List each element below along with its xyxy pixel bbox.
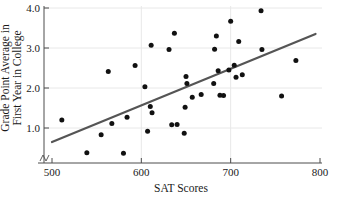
data-point (106, 69, 111, 74)
data-point (183, 105, 188, 110)
data-point (216, 68, 221, 73)
data-point (133, 63, 138, 68)
x-tick-label: 800 (312, 166, 329, 178)
data-point (142, 84, 147, 89)
y-tick-label: 2.0 (26, 82, 40, 94)
data-point (234, 75, 239, 80)
data-point (259, 8, 264, 13)
x-axis-title: SAT Scores (154, 182, 208, 194)
data-point (199, 92, 204, 97)
x-axis-tick-labels: 500600700800 (44, 166, 329, 178)
x-tick-label: 700 (222, 166, 239, 178)
data-point (212, 47, 217, 52)
data-point (221, 93, 226, 98)
data-point (125, 115, 130, 120)
data-point (259, 47, 264, 52)
plot-frame (38, 6, 322, 163)
y-tick-label: 4.0 (26, 2, 40, 14)
data-point (226, 68, 231, 73)
data-point (236, 39, 241, 44)
data-point (148, 104, 153, 109)
data-point (169, 122, 174, 127)
data-point (145, 129, 150, 134)
y-axis-ticks (44, 8, 49, 128)
data-point (84, 150, 89, 155)
data-point (99, 132, 104, 137)
x-axis-ticks (52, 158, 320, 163)
data-point (214, 34, 219, 39)
data-point (279, 94, 284, 99)
y-axis-title-line2: First Year in College (11, 30, 24, 125)
data-point (184, 81, 189, 86)
scatter-plot-figure: 500600700800 1.02.03.04.0 SAT Scores Gra… (0, 0, 342, 202)
data-point (150, 110, 155, 115)
data-point (182, 131, 187, 136)
data-point (109, 121, 114, 126)
data-point (240, 72, 245, 77)
x-tick-label: 600 (133, 166, 150, 178)
data-point (190, 95, 195, 100)
data-point (228, 19, 233, 24)
y-axis-tick-labels: 1.02.03.04.0 (26, 2, 40, 134)
data-point (293, 58, 298, 63)
x-tick-label: 500 (44, 166, 61, 178)
data-point (167, 47, 172, 52)
data-point (184, 74, 189, 79)
chart-canvas: 500600700800 1.02.03.04.0 SAT Scores Gra… (0, 0, 342, 202)
data-point (172, 31, 177, 36)
data-point (149, 43, 154, 48)
y-tick-label: 3.0 (26, 42, 40, 54)
data-point (175, 122, 180, 127)
grid-lines (44, 6, 322, 163)
data-point (59, 118, 64, 123)
data-points (59, 8, 298, 155)
y-tick-label: 1.0 (26, 122, 40, 134)
data-point (232, 63, 237, 68)
data-point (121, 151, 126, 156)
data-point (211, 81, 216, 86)
